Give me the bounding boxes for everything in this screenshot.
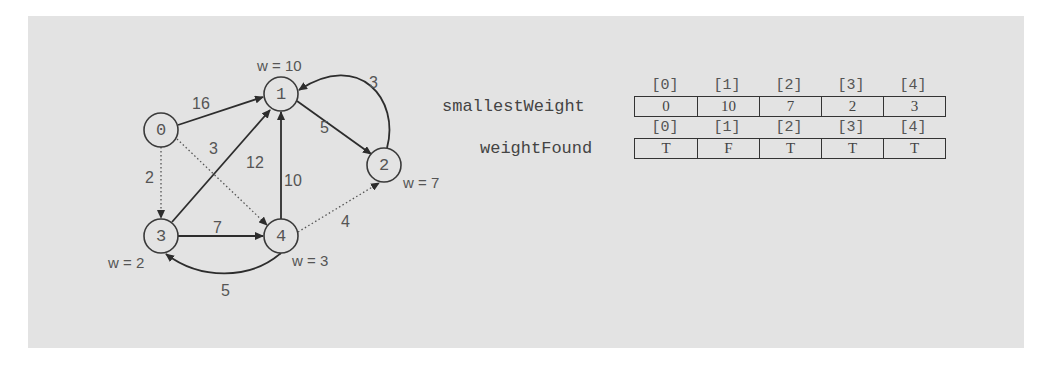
edge-weight-label: 5	[221, 282, 230, 299]
weight-found-label: weightFound	[480, 138, 592, 160]
graph-node-2: 2	[367, 148, 401, 182]
array-cell: T	[821, 139, 883, 158]
array-index: [3]	[820, 78, 882, 94]
graph-node-3: 3	[144, 219, 178, 253]
edge-4-2	[298, 183, 379, 232]
edge-weight-label: 10	[284, 172, 302, 189]
svg-text:4: 4	[276, 227, 286, 246]
smallest-weight-array: 0 10 7 2 3	[634, 96, 946, 117]
edge-0-1	[178, 97, 263, 125]
svg-text:2: 2	[379, 156, 389, 175]
svg-text:0: 0	[156, 121, 166, 140]
weight-found-array: T F T T T	[634, 138, 946, 159]
array-index: [4]	[882, 78, 944, 94]
edge-weight-label: 3	[369, 74, 378, 91]
array-cell: 10	[697, 97, 759, 116]
edge-weight-label: 4	[341, 213, 350, 230]
array-cell: T	[759, 139, 821, 158]
array-index: [0]	[634, 120, 696, 136]
array-index: [2]	[758, 78, 820, 94]
node-weight-label: w = 2	[107, 254, 144, 271]
edge-4-3	[166, 253, 281, 273]
edge-weight-label: 12	[246, 154, 264, 171]
array-index: [1]	[696, 120, 758, 136]
weighted-digraph: 16 2 3 5 3 12 7 10 4 5 0 1 2 3 4 w = 10 …	[0, 0, 1047, 366]
node-weight-label: w = 10	[256, 57, 302, 74]
array-cell: 2	[821, 97, 883, 116]
array-index: [3]	[820, 120, 882, 136]
weight-found-indices: [0] [1] [2] [3] [4]	[634, 120, 944, 136]
svg-text:3: 3	[156, 227, 166, 246]
array-cell: T	[635, 139, 697, 158]
array-cell: 3	[883, 97, 945, 116]
edge-weight-label: 2	[145, 169, 154, 186]
edge-weight-label: 7	[213, 219, 222, 236]
node-weight-label: w = 3	[291, 252, 328, 269]
array-cell: T	[883, 139, 945, 158]
edge-weight-label: 5	[320, 119, 329, 136]
smallest-weight-label: smallestWeight	[442, 96, 585, 118]
array-cell: 7	[759, 97, 821, 116]
graph-node-4: 4	[264, 219, 298, 253]
graph-node-0: 0	[144, 113, 178, 147]
array-cell: F	[697, 139, 759, 158]
array-index: [4]	[882, 120, 944, 136]
array-index: [0]	[634, 78, 696, 94]
array-index: [2]	[758, 120, 820, 136]
array-cell: 0	[635, 97, 697, 116]
graph-node-1: 1	[264, 77, 298, 111]
array-index: [1]	[696, 78, 758, 94]
edge-1-2	[297, 101, 371, 154]
svg-text:1: 1	[276, 85, 286, 104]
edge-weight-label: 3	[209, 140, 218, 157]
smallest-weight-indices: [0] [1] [2] [3] [4]	[634, 78, 944, 94]
edge-0-4	[177, 139, 267, 225]
node-weight-label: w = 7	[402, 174, 439, 191]
edge-weight-label: 16	[192, 95, 210, 112]
